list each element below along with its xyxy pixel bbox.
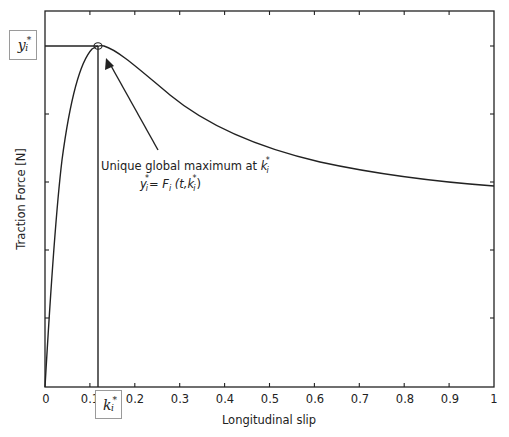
y-star-sub: i	[25, 43, 28, 53]
y-axis-label: Traction Force [N]	[14, 148, 28, 250]
x-tick-0.5: 0.5	[261, 392, 279, 406]
k-star-box-label: k*i	[95, 390, 122, 419]
annotation-line-2: yi*= Fi (t,ki*)	[139, 174, 201, 193]
k-star-sub: i	[111, 403, 114, 413]
x-tick-0.6: 0.6	[306, 392, 324, 406]
x-axis-label: Longitudinal slip	[222, 413, 316, 427]
x-tick-0.3: 0.3	[171, 392, 189, 406]
x-tick-0.7: 0.7	[351, 392, 369, 406]
x-tick-0.8: 0.8	[396, 392, 414, 406]
traction-curve	[45, 46, 494, 387]
y-star-box-label: y*i	[9, 30, 37, 60]
annotation-arrow-shaft	[110, 64, 158, 150]
traction-force-chart: 0 0.1 0.2 0.3 0.4 0.5 0.6 0.7 0.8 0.9 1 …	[0, 0, 509, 437]
x-tick-0.2: 0.2	[126, 392, 144, 406]
x-tick-0.9: 0.9	[441, 392, 459, 406]
x-tick-0: 0	[42, 392, 49, 406]
x-tick-0.4: 0.4	[216, 392, 234, 406]
annotation-line-1: Unique global maximum at ki*	[101, 156, 270, 175]
x-tick-1: 1	[490, 392, 497, 406]
